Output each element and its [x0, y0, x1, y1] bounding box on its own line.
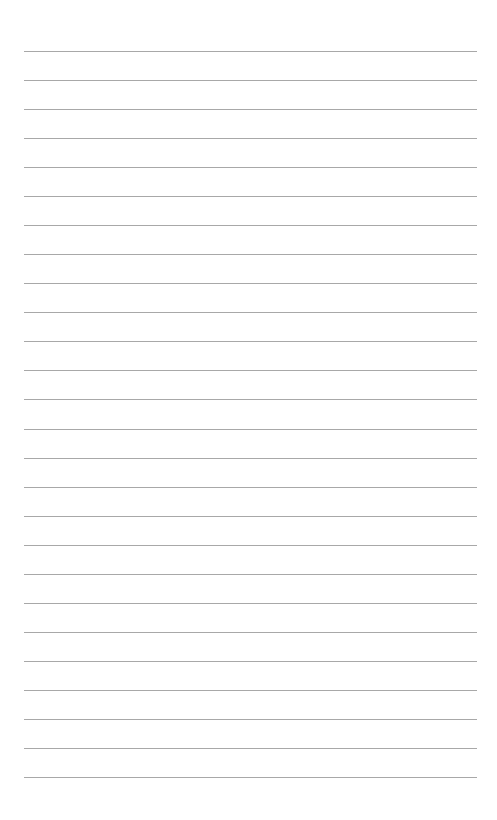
ruled-line	[24, 138, 477, 139]
ruled-line	[24, 545, 477, 546]
ruled-line	[24, 748, 477, 749]
ruled-line	[24, 80, 477, 81]
ruled-line	[24, 225, 477, 226]
ruled-line	[24, 283, 477, 284]
ruled-line	[24, 399, 477, 400]
ruled-line	[24, 312, 477, 313]
ruled-line	[24, 370, 477, 371]
ruled-line	[24, 603, 477, 604]
ruled-line	[24, 487, 477, 488]
lined-paper-page	[0, 0, 497, 820]
ruled-line	[24, 341, 477, 342]
ruled-line	[24, 196, 477, 197]
ruled-line	[24, 661, 477, 662]
ruled-line	[24, 516, 477, 517]
ruled-line	[24, 458, 477, 459]
ruled-line	[24, 51, 477, 52]
ruled-line	[24, 632, 477, 633]
ruled-line	[24, 777, 477, 778]
ruled-line	[24, 690, 477, 691]
ruled-line	[24, 109, 477, 110]
ruled-line	[24, 719, 477, 720]
ruled-line	[24, 254, 477, 255]
ruled-line	[24, 429, 477, 430]
ruled-line	[24, 574, 477, 575]
ruled-line	[24, 167, 477, 168]
